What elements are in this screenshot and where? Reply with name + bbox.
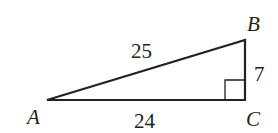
side-label-ab: 25 [131, 39, 152, 63]
vertex-label-a: A [25, 105, 40, 129]
side-label-ac: 24 [134, 109, 156, 133]
triangle-figure: A B C 25 24 7 [0, 0, 278, 133]
triangle-diagram: A B C 25 24 7 [0, 0, 278, 133]
right-angle-marker-icon [225, 80, 245, 100]
side-label-bc: 7 [254, 62, 265, 86]
vertex-label-c: C [246, 107, 261, 131]
vertex-label-b: B [247, 12, 260, 36]
